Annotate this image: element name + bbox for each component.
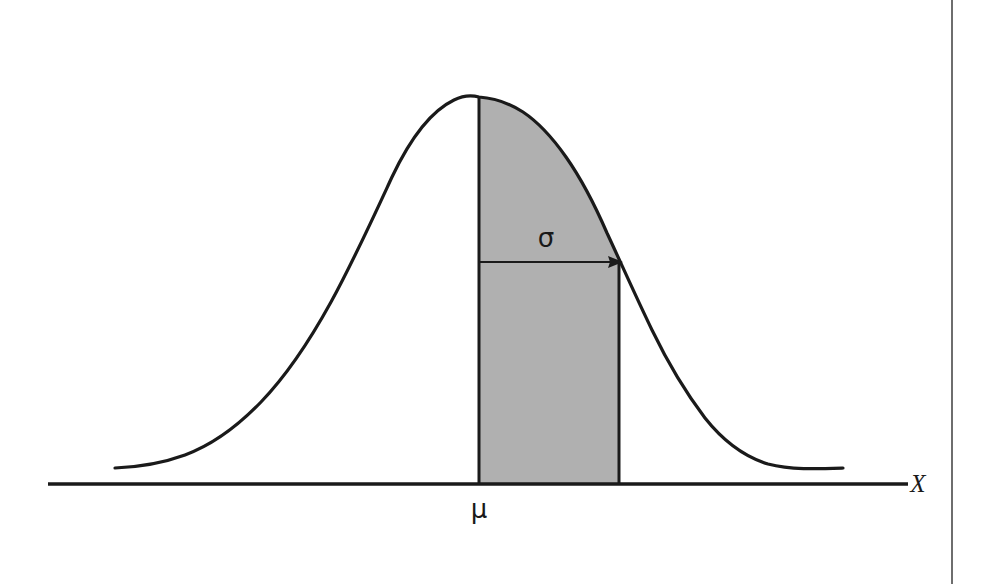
sigma-label: σ [538, 223, 554, 253]
x-axis-label: X [909, 470, 927, 497]
distribution-diagram-canvas: σ μ X [0, 0, 993, 584]
shaded-area-group [479, 97, 619, 484]
normal-distribution-figure: σ μ X [0, 0, 993, 584]
mean-label: μ [471, 494, 488, 524]
shaded-region-mu-to-sigma [479, 97, 619, 484]
